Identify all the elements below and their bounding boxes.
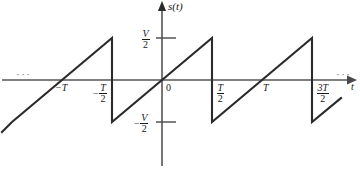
- x-neg-T-half-denominator: 2: [99, 94, 107, 104]
- y-axis-label: s(t): [168, 1, 183, 12]
- x-pos-3T-half-denominator: 2: [317, 94, 330, 104]
- x-tick-label-pos-3T-half: 3T2: [316, 83, 329, 104]
- origin-tick-label: 0: [166, 83, 171, 93]
- x-tick-label-neg-T: −T: [55, 83, 67, 93]
- y-tick-label-lower: −V2: [134, 113, 148, 134]
- plot-canvas: [0, 0, 360, 175]
- x-pos-3T-half-fraction: 3T2: [317, 83, 330, 104]
- y-tick-lower-denominator: 2: [140, 124, 148, 134]
- y-tick-upper-fraction: V2: [142, 29, 150, 50]
- x-tick-label-pos-T: T: [263, 83, 269, 93]
- x-pos-T-half-denominator: 2: [217, 94, 225, 104]
- x-tick-label-neg-T-half: −T2: [93, 83, 107, 104]
- ellipsis-right: ···: [336, 68, 352, 80]
- x-tick-label-pos-T-half: T2: [216, 83, 224, 104]
- x-axis-label: t: [351, 82, 354, 92]
- y-tick-label-upper: V2: [141, 29, 150, 50]
- ellipsis-left: ···: [16, 68, 32, 80]
- y-axis-arrowhead: [158, 1, 166, 11]
- sawtooth-waveform-figure: s(t) t 0 V2 −V2 −T −T2 T2 T 3T2 ··· ···: [0, 0, 360, 175]
- y-tick-lower-fraction: V2: [140, 113, 148, 134]
- y-tick-upper-denominator: 2: [142, 40, 150, 50]
- sawtooth-curve: [2, 38, 341, 132]
- x-pos-T-half-fraction: T2: [217, 83, 225, 104]
- x-neg-T-half-fraction: T2: [99, 83, 107, 104]
